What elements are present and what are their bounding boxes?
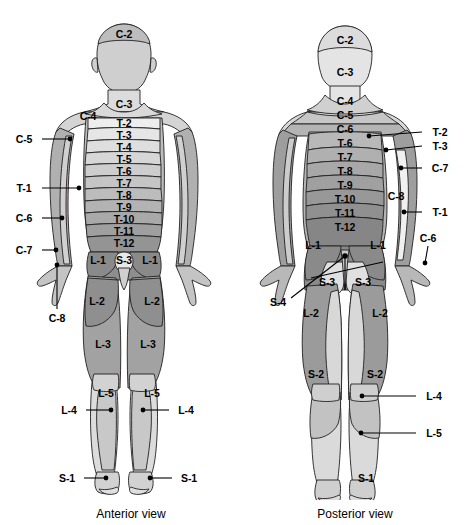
anterior-body-svg bbox=[0, 0, 233, 500]
anterior-dermatome-label-t-4-5: T-4 bbox=[117, 142, 132, 153]
posterior-dermatome-label-s-2-20: S-2 bbox=[367, 369, 383, 380]
anterior-dermatome-label-l-1-14: L-1 bbox=[90, 255, 105, 266]
anterior-leader-label-c-7-3: C-7 bbox=[16, 245, 33, 256]
posterior-leader-label-t-3-1: T-3 bbox=[433, 141, 448, 152]
posterior-knee-left bbox=[312, 384, 340, 402]
anterior-dermatome-label-s-3-15: S-3 bbox=[116, 255, 132, 266]
anterior-dermatome-label-t-7-8: T-7 bbox=[117, 178, 132, 189]
anterior-dermatome-label-t-9-10: T-9 bbox=[117, 202, 132, 213]
posterior-dermatome-label-l-1-14: L-1 bbox=[370, 240, 385, 251]
anterior-leader-label-c-5-0: C-5 bbox=[16, 134, 33, 145]
anterior-leader-label-s-1-8: S-1 bbox=[181, 473, 197, 484]
anterior-hand-right bbox=[176, 266, 211, 306]
posterior-l2-stripe-left bbox=[326, 290, 342, 400]
posterior-dermatome-label-t-9-8: T-9 bbox=[338, 180, 353, 191]
posterior-dermatome-label-s-3-16: S-3 bbox=[355, 277, 371, 288]
posterior-dermatome-label-t-6-5: T-6 bbox=[338, 138, 353, 149]
anterior-hand-left bbox=[37, 266, 72, 306]
anterior-ear-l bbox=[92, 58, 98, 72]
anterior-dermatome-label-t-10-11: T-10 bbox=[114, 214, 135, 225]
posterior-leader-label-c-6-4: C-6 bbox=[420, 233, 437, 244]
anterior-dermatome-label-l-5-22: L-5 bbox=[144, 388, 159, 399]
posterior-leader-label-c-7-2: C-7 bbox=[432, 163, 449, 174]
posterior-hand-right bbox=[395, 266, 430, 306]
anterior-dermatome-label-t-8-9: T-8 bbox=[117, 190, 132, 201]
posterior-dermatome-label-c-3-1: C-3 bbox=[337, 67, 354, 78]
posterior-leader-label-l-5-6: L-5 bbox=[426, 428, 441, 439]
anterior-ear-r bbox=[150, 58, 156, 72]
anterior-leader-label-c-8-4: C-8 bbox=[49, 313, 66, 324]
posterior-dermatome-label-c-4-2: C-4 bbox=[337, 96, 354, 107]
posterior-dermatome-label-l-2-18: L-2 bbox=[372, 308, 387, 319]
caption-anterior: Anterior view bbox=[96, 507, 165, 521]
anterior-dermatome-label-l-3-19: L-3 bbox=[95, 339, 110, 350]
anterior-dermatome-label-l-5-21: L-5 bbox=[98, 388, 113, 399]
anterior-dermatome-label-t-6-7: T-6 bbox=[117, 166, 132, 177]
anterior-dermatome-label-t-2-3: T-2 bbox=[117, 118, 132, 129]
posterior-dermatome-label-c-5-3: C-5 bbox=[337, 110, 354, 121]
posterior-dermatome-label-s-2-19: S-2 bbox=[308, 369, 324, 380]
anterior-leader-label-s-1-7: S-1 bbox=[59, 473, 75, 484]
posterior-leader-label-t-1-3: T-1 bbox=[433, 207, 448, 218]
dermatome-figure: C-2C-3C-4T-2T-3T-4T-5T-6T-7T-8T-9T-10T-1… bbox=[0, 0, 466, 525]
anterior-dermatome-label-l-3-20: L-3 bbox=[140, 339, 155, 350]
posterior-dermatome-label-c-8-12: C-8 bbox=[388, 191, 405, 202]
anterior-dermatome-label-l-2-17: L-2 bbox=[89, 296, 104, 307]
anterior-leader-label-l-4-5: L-4 bbox=[61, 405, 76, 416]
posterior-l2-stripe-right bbox=[348, 290, 364, 400]
posterior-dermatome-label-t-10-9: T-10 bbox=[335, 194, 356, 205]
anterior-dermatome-label-l-1-16: L-1 bbox=[142, 255, 157, 266]
anterior-dermatome-label-c-4-2: C-4 bbox=[80, 111, 97, 122]
posterior-leader-label-s-4-7: S-4 bbox=[270, 297, 286, 308]
posterior-dermatome-label-l-1-13: L-1 bbox=[305, 240, 320, 251]
posterior-dermatome-label-t-7-6: T-7 bbox=[338, 152, 353, 163]
posterior-dermatome-label-c-6-4: C-6 bbox=[337, 124, 354, 135]
anterior-leader-label-c-6-2: C-6 bbox=[16, 213, 33, 224]
posterior-dermatome-label-t-12-11: T-12 bbox=[335, 222, 356, 233]
caption-posterior: Posterior view bbox=[317, 507, 392, 521]
posterior-knee-right bbox=[350, 384, 378, 402]
anterior-dermatome-label-c-2-0: C-2 bbox=[116, 29, 133, 40]
anterior-dermatome-label-t-11-12: T-11 bbox=[114, 226, 134, 237]
anterior-dermatome-label-c-3-1: C-3 bbox=[116, 99, 133, 110]
anterior-dermatome-label-t-5-6: T-5 bbox=[117, 154, 132, 165]
posterior-dermatome-label-t-8-7: T-8 bbox=[338, 166, 353, 177]
posterior-dermatome-label-l-2-17: L-2 bbox=[303, 308, 318, 319]
anterior-leader-label-l-4-6: L-4 bbox=[178, 405, 193, 416]
posterior-dermatome-label-c-2-0: C-2 bbox=[337, 35, 354, 46]
posterior-leader-label-l-4-5: L-4 bbox=[426, 391, 441, 402]
anterior-groin bbox=[118, 268, 130, 290]
anterior-dermatome-label-t-3-4: T-3 bbox=[117, 130, 132, 141]
anterior-dermatome-label-l-2-18: L-2 bbox=[144, 296, 159, 307]
anterior-leader-label-t-1-1: T-1 bbox=[17, 183, 32, 194]
posterior-dermatome-label-s-1-21: S-1 bbox=[358, 473, 374, 484]
posterior-leader-label-t-2-0: T-2 bbox=[433, 127, 448, 138]
posterior-dermatome-label-s-3-15: S-3 bbox=[319, 277, 335, 288]
posterior-dermatome-label-t-11-10: T-11 bbox=[335, 208, 355, 219]
anterior-dermatome-label-t-12-13: T-12 bbox=[114, 238, 135, 249]
